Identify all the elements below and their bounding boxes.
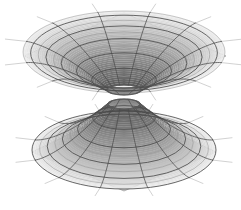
embedding-diagram-figure: [0, 0, 241, 210]
wormhole-diagram-canvas: [0, 0, 241, 210]
